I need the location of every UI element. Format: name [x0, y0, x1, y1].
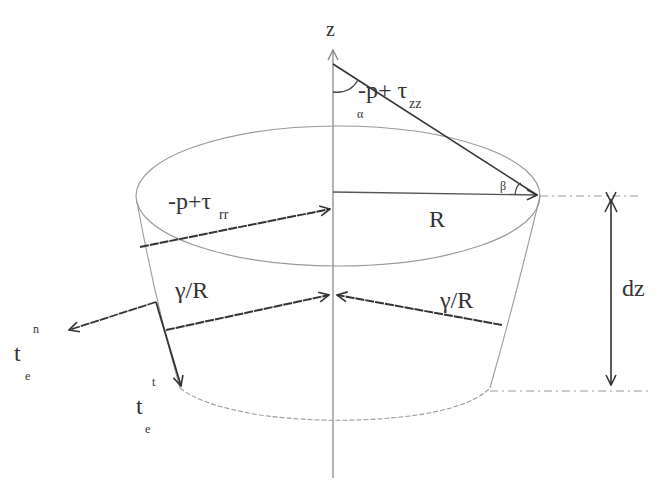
normal-vector-arrow: [69, 302, 156, 330]
radius-label: R: [429, 206, 445, 232]
height-dz-label: dz: [622, 275, 645, 301]
surface-tension-right-arrow: [337, 295, 502, 325]
stress-zz-subscript: zz: [409, 96, 421, 111]
radial-stress-subscript: rr: [219, 207, 229, 222]
cone-right-side: [490, 196, 540, 388]
surface-tension-left-label: γ/R: [174, 277, 208, 303]
alpha-label: α: [357, 107, 364, 121]
normal-vector-superscript: n: [33, 322, 39, 336]
radial-stress-label: -p+τ: [168, 188, 212, 214]
radial-stress-arrow: [140, 209, 330, 247]
normal-vector-subscript: e: [25, 369, 30, 383]
surface-tension-right-label: γ/R: [439, 287, 473, 313]
normal-vector-label: t: [14, 340, 21, 366]
stress-zz-label: -p+ τ: [358, 77, 408, 103]
tangent-vector-arrow: [156, 302, 181, 386]
axis-z-label: z: [326, 18, 335, 40]
radius-line: [333, 192, 537, 195]
tangent-vector-subscript: e: [145, 422, 150, 436]
tangent-vector-superscript: t: [152, 375, 156, 389]
alpha-angle-arc: [333, 80, 358, 92]
bottom-arc: [180, 388, 490, 420]
beta-label: β: [500, 179, 506, 193]
tangent-vector-label: t: [136, 393, 143, 419]
cone-element-diagram: z -p+ τ zz α β -p+τ rr R γ/R γ/R dz n t …: [0, 0, 663, 492]
